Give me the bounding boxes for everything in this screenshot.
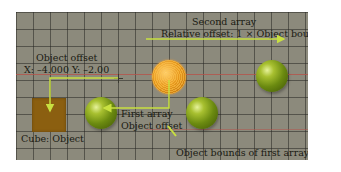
viewport-panel: Second array Relative offset: 1 × Object…: [16, 12, 308, 160]
annotation-arrows: [16, 12, 308, 160]
